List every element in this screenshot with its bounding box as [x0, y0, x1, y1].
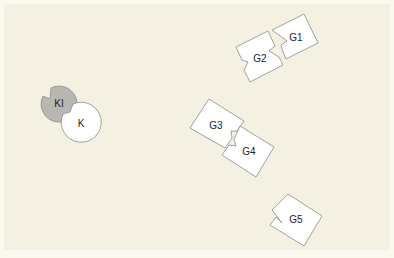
g1-label: G1 [289, 32, 303, 43]
g2-shape: G2 [236, 31, 283, 82]
g5-label: G5 [289, 214, 303, 225]
g3-label: G3 [209, 120, 223, 131]
g2-label: G2 [253, 53, 267, 64]
diagram-canvas: KI K G2 G1 G3 G4 G5 [0, 0, 394, 258]
g5-shape: G5 [270, 194, 322, 246]
g1-shape: G1 [272, 14, 318, 59]
ki-label: KI [54, 98, 63, 109]
k-label: K [78, 118, 85, 129]
g4-label: G4 [242, 146, 256, 157]
